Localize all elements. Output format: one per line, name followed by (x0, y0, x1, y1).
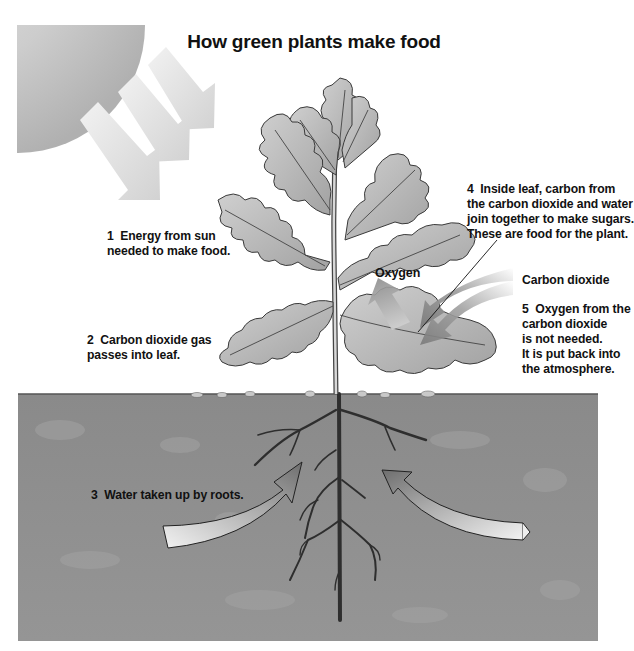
label-oxygen-released: 5 Oxygen from the carbon dioxide is not … (522, 302, 631, 377)
label-sun-energy: 1 Energy from sun needed to make food. (107, 229, 230, 259)
soil (18, 391, 598, 641)
label-co2-gas: 2 Carbon dioxide gas passes into leaf. (87, 333, 212, 363)
label-oxygen: Oxygen (375, 266, 420, 281)
label-carbon-dioxide: Carbon dioxide (522, 273, 609, 288)
label-water-roots: 3 Water taken up by roots. (91, 488, 244, 503)
label-inside-leaf: 4 Inside leaf, carbon from the carbon di… (467, 182, 634, 242)
